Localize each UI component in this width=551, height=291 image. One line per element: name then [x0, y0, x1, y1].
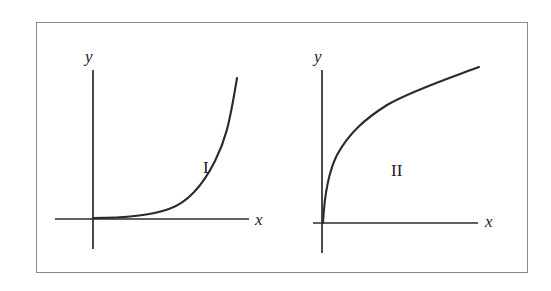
figure-frame: y x I y x II: [36, 22, 528, 273]
graph-label-two: II: [391, 162, 402, 179]
x-axis-label-one: x: [255, 211, 263, 228]
logarithmic-curve: [323, 67, 479, 223]
y-axis-label-one: y: [85, 48, 93, 65]
figure-root: y x I y x II: [0, 0, 551, 291]
y-axis-label-two: y: [314, 48, 322, 65]
graph-one-svg: [37, 23, 283, 272]
graph-panel-one: [37, 23, 283, 272]
exponential-curve: [93, 78, 237, 218]
graph-label-one: I: [203, 159, 209, 176]
x-axis-label-two: x: [485, 213, 493, 230]
